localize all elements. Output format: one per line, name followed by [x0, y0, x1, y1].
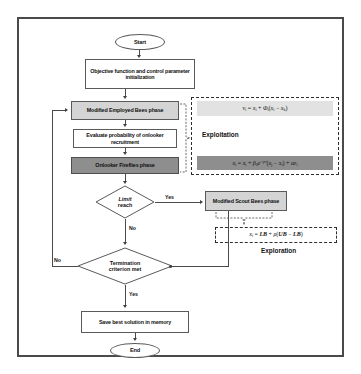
node-onlooker-fireflies-label: Onlooker Fireflies phase [95, 162, 154, 168]
node-limit-reach[interactable]: Limit reach [95, 185, 155, 219]
node-onlooker-fireflies[interactable]: Onlooker Fireflies phase [71, 157, 179, 174]
edge-scout-to-termination [171, 266, 229, 267]
edge-scout-down [228, 211, 229, 266]
reach-word: reach [118, 202, 132, 208]
node-initialization-label: Objective function and control parameter… [88, 68, 192, 81]
edge-label-limit-no: No [129, 225, 136, 231]
employed-bees-equation: vi = xi + Φi(xi − xk) [197, 101, 333, 116]
node-evaluate-probability[interactable]: Evaluate probability of onlooker recruit… [73, 129, 177, 148]
exploration-label: Exploration [261, 247, 296, 254]
edge-limit-no-arrow [123, 242, 127, 245]
node-save-best-solution-label: Save best solution in memory [99, 319, 171, 325]
termination-word: Termination [110, 260, 140, 266]
edge-label-termination-no: No [54, 257, 61, 263]
edge-start-to-init-arrow [137, 55, 141, 58]
edge-onlooker-to-limit-arrow [123, 181, 127, 184]
node-modified-employed-bees[interactable]: Modified Employed Bees phase [71, 101, 179, 120]
scout-bees-equation: xi = LB + ρ(UB − LB) [217, 228, 335, 241]
edge-termination-no-to-employed [52, 110, 66, 111]
exploration-brace [215, 211, 275, 227]
flowchart-canvas: vi = xi + Φi(xi − xk) Exploitation xi = … [0, 0, 361, 374]
node-modified-employed-bees-label: Modified Employed Bees phase [87, 107, 164, 113]
limit-word: Limit [119, 196, 132, 202]
node-start[interactable]: Start [115, 34, 165, 50]
edge-employed-to-evaluate-arrow [123, 124, 127, 127]
firefly-equation: xi = xi + β0e−γr²(xj − xi) + αεi [197, 156, 333, 170]
node-evaluate-probability-label: Evaluate probability of onlooker recruit… [76, 132, 174, 145]
criterion-met-word: criterion met [109, 266, 142, 272]
edge-limit-yes-to-scout [155, 202, 201, 203]
node-modified-scout-bees[interactable]: Modified Scout Bees phase [205, 191, 287, 211]
edge-termination-yes-down [125, 285, 126, 306]
node-termination-criterion[interactable]: Termination criterion met [77, 247, 173, 285]
edge-termination-no-arrow [65, 108, 68, 112]
edge-evaluate-to-onlooker-arrow [123, 152, 127, 155]
edge-termination-no-left [52, 266, 78, 267]
edge-label-limit-yes: Yes [165, 194, 174, 200]
edge-termination-no-up [52, 110, 53, 267]
node-start-label: Start [134, 39, 146, 46]
edge-limit-yes-arrow [200, 200, 203, 204]
exploitation-brace [179, 103, 191, 173]
edge-init-to-employed [125, 89, 126, 96]
node-termination-criterion-label: Termination criterion met [77, 247, 173, 285]
node-end-label: End [130, 347, 140, 354]
node-save-best-solution[interactable]: Save best solution in memory [81, 311, 189, 333]
node-modified-scout-bees-label: Modified Scout Bees phase [213, 198, 279, 204]
edge-label-termination-yes: Yes [129, 291, 138, 297]
edge-limit-no-down [125, 219, 126, 243]
edge-save-to-end-arrow [133, 338, 137, 341]
edge-termination-yes-arrow [123, 305, 127, 308]
exploitation-label: Exploitation [202, 131, 239, 138]
diagram-frame: vi = xi + Φi(xi − xk) Exploitation xi = … [17, 17, 344, 357]
edge-init-to-employed-arrow [123, 96, 127, 99]
node-end[interactable]: End [110, 343, 160, 358]
edge-scout-termination-junction [169, 265, 172, 268]
node-initialization[interactable]: Objective function and control parameter… [85, 59, 195, 89]
node-limit-reach-label: Limit reach [95, 185, 155, 219]
